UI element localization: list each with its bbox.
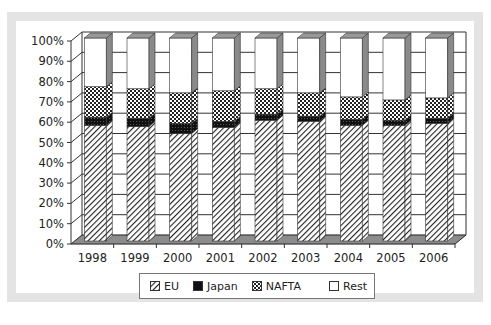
y-tick-label: 40% bbox=[38, 156, 64, 170]
segment-eu bbox=[84, 125, 106, 241]
segment-japan bbox=[212, 121, 234, 127]
segment-rest bbox=[298, 38, 320, 93]
bar-2003 bbox=[298, 33, 326, 241]
bar-1998 bbox=[84, 33, 112, 241]
legend-label-japan: Japan bbox=[207, 280, 238, 293]
segment-rest bbox=[426, 38, 448, 98]
segment-eu bbox=[383, 125, 405, 241]
segment-nafta bbox=[298, 93, 320, 116]
segment-japan bbox=[255, 114, 277, 120]
x-tick-label: 2002 bbox=[248, 251, 277, 265]
bar-2004 bbox=[340, 33, 368, 241]
y-tick-label: 90% bbox=[38, 54, 64, 68]
segment-nafta bbox=[170, 93, 192, 123]
segment-nafta bbox=[255, 89, 277, 114]
legend: EU Japan NAFTA Rest bbox=[139, 273, 375, 299]
x-tick-label: 2001 bbox=[206, 251, 235, 265]
segment-nafta bbox=[340, 97, 362, 119]
y-tick-label: 70% bbox=[38, 95, 64, 109]
segment-japan bbox=[298, 116, 320, 121]
y-tick-label: 50% bbox=[38, 136, 64, 150]
legend-label-nafta: NAFTA bbox=[266, 280, 301, 293]
segment-japan bbox=[426, 118, 448, 123]
segment-japan bbox=[170, 123, 192, 133]
x-tick-label: 2004 bbox=[334, 251, 363, 265]
segment-eu bbox=[212, 127, 234, 241]
segment-eu bbox=[255, 120, 277, 241]
segment-eu bbox=[340, 125, 362, 241]
bar-2001 bbox=[212, 33, 240, 241]
legend-item-japan: Japan bbox=[193, 280, 238, 293]
segment-japan bbox=[383, 120, 405, 125]
legend-item-eu: EU bbox=[150, 280, 179, 293]
nafta-swatch-icon bbox=[252, 281, 262, 291]
legend-item-nafta: NAFTA bbox=[252, 280, 301, 293]
segment-nafta bbox=[212, 91, 234, 121]
segment-nafta bbox=[383, 100, 405, 120]
y-tick-label: 30% bbox=[38, 176, 64, 190]
y-tick-label: 10% bbox=[38, 217, 64, 231]
segment-rest bbox=[383, 38, 405, 100]
y-tick-label: 100% bbox=[31, 34, 64, 48]
japan-swatch-icon bbox=[193, 281, 203, 291]
rest-swatch-icon bbox=[329, 281, 339, 291]
bar-2000 bbox=[170, 33, 198, 241]
bars bbox=[84, 33, 453, 241]
segment-japan bbox=[127, 118, 149, 126]
segment-eu bbox=[298, 121, 320, 241]
x-tick-label: 2003 bbox=[291, 251, 320, 265]
bar-2006 bbox=[426, 33, 454, 241]
legend-item-rest: Rest bbox=[329, 280, 367, 293]
bar-2005 bbox=[383, 33, 411, 241]
x-tick-label: 1999 bbox=[120, 251, 149, 265]
segment-rest bbox=[255, 38, 277, 89]
segment-nafta bbox=[84, 87, 106, 117]
y-tick-label: 0% bbox=[46, 237, 64, 251]
x-tick-label: 2006 bbox=[419, 251, 448, 265]
y-tick-label: 60% bbox=[38, 115, 64, 129]
legend-label-eu: EU bbox=[164, 280, 179, 293]
x-tick-label: 2005 bbox=[376, 251, 405, 265]
segment-rest bbox=[127, 38, 149, 89]
segment-eu bbox=[426, 123, 448, 241]
y-tick-label: 80% bbox=[38, 75, 64, 89]
segment-nafta bbox=[127, 89, 149, 118]
segment-rest bbox=[340, 38, 362, 97]
segment-eu bbox=[170, 133, 192, 241]
segment-eu bbox=[127, 126, 149, 241]
x-tick-label: 1998 bbox=[78, 251, 107, 265]
eu-swatch-icon bbox=[150, 281, 160, 291]
bar-2002 bbox=[255, 33, 283, 241]
segment-rest bbox=[170, 38, 192, 93]
y-tick-label: 20% bbox=[38, 196, 64, 210]
segment-japan bbox=[84, 117, 106, 125]
legend-label-rest: Rest bbox=[343, 280, 367, 293]
segment-nafta bbox=[426, 98, 448, 118]
x-tick-label: 2000 bbox=[163, 251, 192, 265]
bar-1999 bbox=[127, 33, 155, 241]
segment-rest bbox=[212, 38, 234, 91]
segment-rest bbox=[84, 38, 106, 87]
segment-japan bbox=[340, 119, 362, 125]
